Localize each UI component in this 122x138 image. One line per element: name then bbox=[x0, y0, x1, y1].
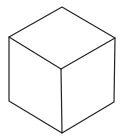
cube-edge-right-top-to-center bbox=[61, 38, 115, 69]
cube-diagram: Cube bbox=[0, 0, 122, 138]
cube-edge-left-top-to-center bbox=[9, 37, 61, 69]
cube-icon bbox=[0, 0, 122, 138]
cube-edge-center-to-bottom bbox=[61, 69, 62, 133]
